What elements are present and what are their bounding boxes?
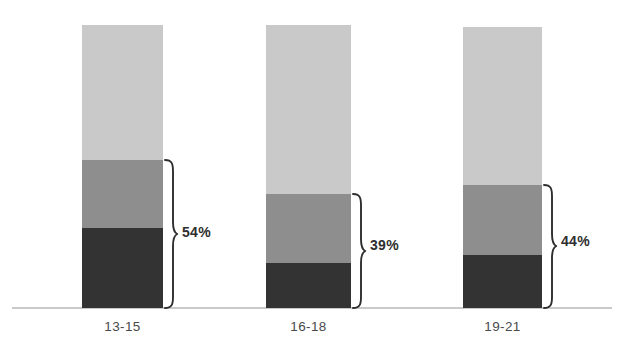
brace-label-13-15: 54% [182, 224, 211, 240]
brace-label-16-18: 39% [370, 237, 399, 253]
bar-stack-16-18 [266, 25, 351, 308]
bar-segment-medium-19-21 [463, 185, 542, 255]
bar-group-19-21 [463, 0, 542, 355]
bar-segment-dark-16-18 [266, 263, 351, 308]
bar-segment-medium-13-15 [82, 160, 163, 228]
bar-stack-19-21 [463, 27, 542, 308]
brace-13-15 [164, 158, 178, 310]
plot-area: 54% 13-15 39% 16-18 [0, 0, 624, 355]
bar-segment-light-19-21 [463, 27, 542, 185]
brace-19-21 [543, 183, 557, 310]
bar-segment-light-13-15 [82, 25, 163, 160]
x-tick-label-19-21: 19-21 [463, 319, 542, 334]
bar-segment-medium-16-18 [266, 194, 351, 263]
brace-label-19-21: 44% [561, 233, 590, 249]
bar-group-16-18 [266, 0, 351, 355]
x-tick-label-13-15: 13-15 [82, 319, 163, 334]
stacked-bar-chart: 54% 13-15 39% 16-18 [0, 0, 624, 355]
bar-segment-dark-13-15 [82, 228, 163, 308]
x-tick-label-16-18: 16-18 [266, 319, 351, 334]
brace-16-18 [352, 192, 366, 310]
bar-segment-light-16-18 [266, 25, 351, 194]
bar-stack-13-15 [82, 25, 163, 308]
bar-group-13-15 [82, 0, 163, 355]
bar-segment-dark-19-21 [463, 255, 542, 308]
